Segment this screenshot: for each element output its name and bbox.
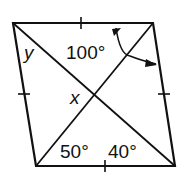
label-angle-50: 50° (60, 141, 89, 162)
label-angle-100: 100° (66, 42, 105, 63)
label-x: x (69, 87, 81, 108)
label-y: y (22, 42, 35, 63)
rhombus-diagram: y 100° x 50° 40° (0, 0, 184, 181)
label-angle-40: 40° (108, 141, 137, 162)
angle-arc-arrow (116, 28, 156, 64)
